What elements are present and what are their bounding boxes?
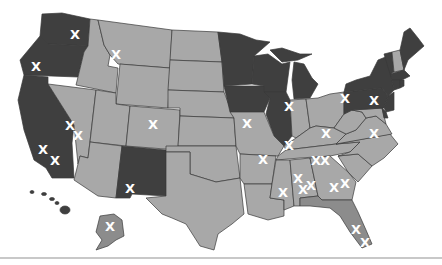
x-marker-ga[interactable]: X (339, 177, 351, 190)
x-marker-fl[interactable]: X (359, 236, 371, 249)
state-me[interactable] (400, 28, 424, 70)
state-wa[interactable] (40, 13, 90, 46)
x-marker-il[interactable]: X (283, 139, 295, 152)
state-mi[interactable] (292, 62, 318, 99)
state-ks[interactable] (178, 116, 236, 146)
x-marker-il[interactable]: X (283, 100, 295, 113)
x-marker-nm[interactable]: X (124, 182, 136, 195)
x-marker-wa[interactable]: X (69, 28, 81, 41)
state-nd[interactable] (170, 30, 222, 62)
state-wy[interactable] (116, 64, 170, 108)
state-sd[interactable] (168, 60, 224, 92)
x-marker-mt[interactable]: X (110, 48, 122, 61)
x-marker-ak[interactable]: X (104, 220, 116, 233)
x-marker-co[interactable]: X (147, 118, 159, 131)
x-marker-ar[interactable]: X (257, 153, 269, 166)
x-marker-ca[interactable]: X (37, 143, 49, 156)
x-marker-or[interactable]: X (30, 60, 42, 73)
x-marker-ca[interactable]: X (49, 154, 61, 167)
x-marker-pa[interactable]: X (368, 94, 380, 107)
state-ri[interactable] (400, 80, 404, 88)
bottom-divider (0, 257, 442, 259)
x-marker-nv[interactable]: X (72, 129, 84, 142)
x-marker-tn[interactable]: X (319, 154, 331, 167)
x-marker-al[interactable]: X (305, 179, 317, 192)
x-marker-ky[interactable]: X (320, 127, 332, 140)
x-marker-ms[interactable]: X (277, 186, 289, 199)
x-marker-pa[interactable]: X (339, 92, 351, 105)
x-marker-va[interactable]: X (368, 127, 380, 140)
state-ia[interactable] (224, 86, 270, 112)
state-hi[interactable] (30, 191, 70, 215)
x-marker-mo[interactable]: X (241, 117, 253, 130)
